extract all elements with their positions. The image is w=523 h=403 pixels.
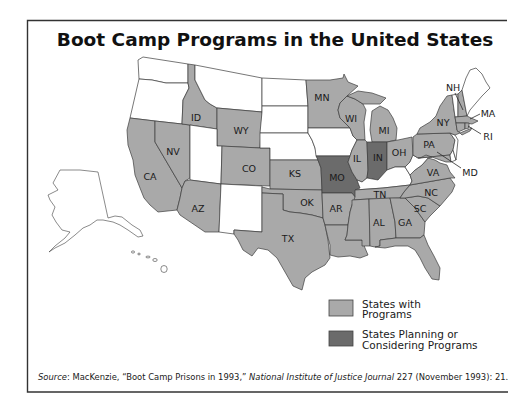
state-HI — [131, 251, 167, 273]
state-UT — [190, 125, 222, 184]
state-label-AR: AR — [329, 203, 342, 214]
state-NM — [219, 184, 262, 234]
hawaii-island-kauai — [131, 251, 134, 253]
state-label-TN: TN — [373, 189, 387, 200]
state-label-IL: IL — [353, 153, 362, 164]
state-WA — [138, 57, 188, 83]
state-label-RI: RI — [483, 131, 492, 142]
state-label-NH: NH — [446, 82, 460, 93]
state-label-MI: MI — [379, 125, 390, 136]
state-label-IN: IN — [373, 152, 383, 163]
state-label-VA: VA — [427, 167, 440, 178]
state-FL — [375, 235, 440, 280]
state-label-AL: AL — [373, 217, 385, 228]
state-label-OK: OK — [300, 197, 314, 208]
hawaii-island-big-island — [161, 266, 167, 273]
state-label-TX: TX — [281, 233, 295, 244]
map-legend: States with Programs States Planning or … — [329, 298, 478, 351]
state-label-PA: PA — [423, 139, 435, 150]
map-title: Boot Camp Programs in the United States — [57, 29, 493, 50]
state-label-ID: ID — [191, 112, 201, 123]
state-label-SC: SC — [414, 203, 427, 214]
state-label-MA: MA — [481, 108, 496, 119]
us-map — [48, 57, 490, 290]
hawaii-island-maui — [153, 259, 157, 262]
boot-camp-map-figure: Boot Camp Programs in the United States — [0, 0, 523, 403]
state-label-NY: NY — [437, 117, 450, 128]
state-label-CA: CA — [143, 171, 157, 182]
leader-line-MA — [470, 114, 480, 119]
legend-label-line2: Programs — [362, 308, 412, 320]
legend-item-planning: States Planning or Considering Programs — [329, 328, 478, 351]
state-CT — [456, 123, 465, 132]
state-label-KS: KS — [289, 168, 301, 179]
state-label-WY: WY — [233, 125, 248, 136]
state-ND — [262, 78, 308, 106]
state-AK — [48, 170, 143, 252]
hawaii-island-molokai — [146, 256, 150, 258]
legend-swatch-programs — [329, 300, 353, 316]
source-journal: National Institute of Justice Journal — [249, 372, 395, 382]
legend-swatch-planning — [329, 331, 353, 346]
state-IA — [308, 128, 357, 156]
state-label-MO: MO — [329, 172, 345, 183]
state-OR — [130, 79, 189, 124]
state-label-NC: NC — [424, 187, 438, 198]
state-label-MD: MD — [462, 167, 478, 178]
legend-item-programs: States with Programs — [329, 298, 421, 321]
state-label-GA: GA — [398, 217, 412, 228]
state-SD — [260, 106, 308, 133]
source-text-author-title: : MacKenzie, “Boot Camp Prisons in 1993,… — [67, 372, 249, 382]
state-label-OH: OH — [392, 147, 407, 158]
source-note: Source: MacKenzie, “Boot Camp Prisons in… — [38, 372, 508, 382]
state-label-AZ: AZ — [191, 203, 204, 214]
state-label-MN: MN — [314, 92, 329, 103]
state-label-WI: WI — [345, 113, 357, 124]
state-label-CO: CO — [242, 163, 256, 174]
source-label: Source — [38, 372, 67, 382]
state-label-NV: NV — [166, 146, 180, 157]
legend-label-line2: Considering Programs — [362, 339, 478, 351]
source-text-citation: 227 (November 1993): 21. — [394, 372, 508, 382]
hawaii-island-oahu — [138, 253, 141, 255]
